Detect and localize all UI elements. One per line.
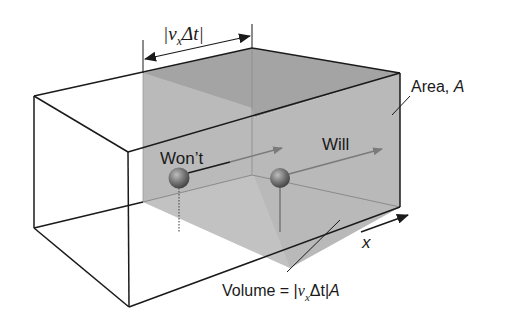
wont-label: Won’t [160, 149, 203, 168]
volume-label: Volume = |vxΔt|A [222, 282, 340, 303]
flux-volume-diagram: |vxΔt| Won’t Will Area, A x Volume = |vx… [0, 0, 515, 324]
area-label: Area, A [411, 78, 464, 95]
will-label: Will [322, 135, 349, 154]
area-label-group: Area, A [392, 78, 464, 115]
width-label: |vxΔt| [163, 23, 204, 48]
x-axis-label: x [361, 233, 371, 252]
wont-particle [169, 168, 190, 189]
will-particle [270, 168, 290, 188]
